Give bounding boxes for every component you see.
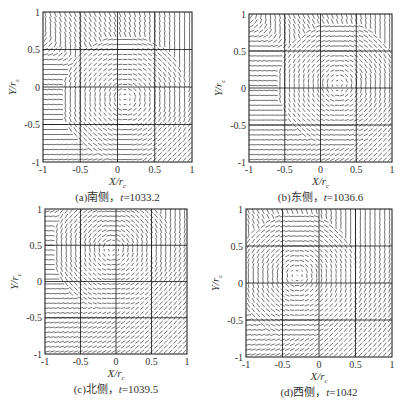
quiver-plot-c: -1-1-0.5-0.5000.50.511X/rcY/rc — [45, 209, 187, 354]
x-tick-label: -1 — [245, 164, 253, 175]
y-tick-label: 0.5 — [28, 44, 41, 55]
panel-d: -1-1-0.5-0.5000.50.511X/rcY/rc (d)西侧，t=1… — [246, 209, 392, 357]
y-tick-label: 0 — [37, 276, 42, 287]
y-axis-label: Y/rc — [212, 79, 227, 96]
caption-d: (d)西侧，t=1042 — [246, 383, 392, 399]
y-axis-label: Y/rc — [209, 274, 224, 291]
x-tick-label: 1 — [185, 356, 190, 367]
x-tick-label: -0.5 — [73, 356, 89, 367]
y-tick-label: -1 — [235, 352, 243, 363]
caption-value: =1036.6 — [327, 191, 363, 203]
y-tick-label: 0.5 — [234, 46, 247, 57]
panel-a: -1-1-0.5-0.5000.50.511X/rcY/rc (a)南侧，t=1… — [43, 12, 192, 162]
x-tick-label: 1 — [390, 164, 395, 175]
y-tick-label: -1 — [34, 349, 42, 360]
y-axis-label: Y/rc — [8, 272, 23, 289]
x-tick-label: 0 — [317, 359, 322, 370]
caption-label: (d)西侧， — [280, 386, 326, 398]
y-tick-label: -1 — [32, 157, 40, 168]
y-tick-label: 0 — [241, 83, 246, 94]
panel-b: -1-1-0.5-0.5000.50.511X/rcY/rc (b)东侧，t=1… — [249, 14, 392, 162]
x-tick-label: 1 — [390, 359, 395, 370]
quiver-plot-a: -1-1-0.5-0.5000.50.511X/rcY/rc — [43, 12, 192, 162]
x-tick-label: 1 — [190, 164, 195, 175]
y-tick-label: -0.5 — [26, 312, 42, 323]
caption-b: (b)东侧，t=1036.6 — [249, 188, 392, 204]
caption-value: =1033.2 — [123, 191, 159, 203]
y-axis-label: Y/rc — [6, 78, 21, 95]
caption-value: =1042 — [329, 386, 357, 398]
x-tick-label: 0.5 — [349, 359, 362, 370]
y-tick-label: -0.5 — [230, 120, 246, 131]
y-tick-label: -0.5 — [24, 119, 40, 130]
x-tick-label: -0.5 — [275, 359, 291, 370]
caption-label: (b)东侧， — [278, 191, 324, 203]
caption-value: =1039.5 — [122, 383, 158, 395]
caption-a: (a)南侧，t=1033.2 — [43, 188, 192, 204]
x-tick-label: 0 — [318, 164, 323, 175]
y-tick-label: 0.5 — [231, 241, 244, 252]
caption-label: (c)北侧， — [74, 383, 119, 395]
y-tick-label: 0 — [238, 278, 243, 289]
x-tick-label: 0.5 — [350, 164, 363, 175]
x-tick-label: -1 — [242, 359, 250, 370]
x-tick-label: -1 — [39, 164, 47, 175]
y-tick-label: 1 — [241, 9, 246, 20]
y-tick-label: 1 — [37, 204, 42, 215]
x-tick-label: 0 — [115, 164, 120, 175]
y-tick-label: 0.5 — [30, 240, 43, 251]
x-tick-label: 0.5 — [145, 356, 158, 367]
x-tick-label: -0.5 — [277, 164, 293, 175]
caption-label: (a)南侧， — [75, 191, 120, 203]
y-tick-label: -1 — [238, 157, 246, 168]
y-tick-label: 1 — [238, 204, 243, 215]
y-tick-label: -0.5 — [227, 315, 243, 326]
x-tick-label: -1 — [41, 356, 49, 367]
caption-c: (c)北侧，t=1039.5 — [45, 380, 187, 396]
x-tick-label: 0 — [114, 356, 119, 367]
x-tick-label: 0.5 — [149, 164, 162, 175]
y-tick-label: 1 — [35, 7, 40, 18]
y-tick-label: 0 — [35, 82, 40, 93]
quiver-plot-b: -1-1-0.5-0.5000.50.511X/rcY/rc — [249, 14, 392, 162]
x-tick-label: -0.5 — [72, 164, 88, 175]
quiver-plot-d: -1-1-0.5-0.5000.50.511X/rcY/rc — [246, 209, 392, 357]
panel-c: -1-1-0.5-0.5000.50.511X/rcY/rc (c)北侧，t=1… — [45, 209, 187, 354]
